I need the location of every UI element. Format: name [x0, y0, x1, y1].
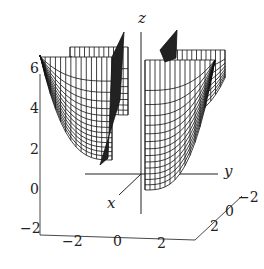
surface-fold [160, 30, 177, 62]
surface-sheet [145, 60, 215, 190]
z-tick-label: 0 [30, 182, 39, 196]
surface-sheet [40, 55, 112, 160]
z-tick-label: 2 [30, 142, 39, 156]
x-tick-label: −2 [62, 234, 83, 248]
y-axis-label: y [224, 164, 232, 179]
x-tick-label: 2 [157, 236, 166, 250]
z-tick-label: 6 [30, 61, 39, 75]
x-tick-label: 0 [113, 234, 122, 248]
z-tick-label: 4 [30, 101, 39, 115]
z-axis-label: z [138, 11, 146, 26]
wireframe-sheets [40, 30, 225, 190]
x-axis-label: x [107, 196, 115, 211]
y-tick-label: 2 [210, 219, 219, 233]
y-tick-label: 0 [225, 204, 234, 218]
z-tick-label: −2 [20, 221, 41, 235]
y-tick-label: −2 [238, 190, 259, 204]
